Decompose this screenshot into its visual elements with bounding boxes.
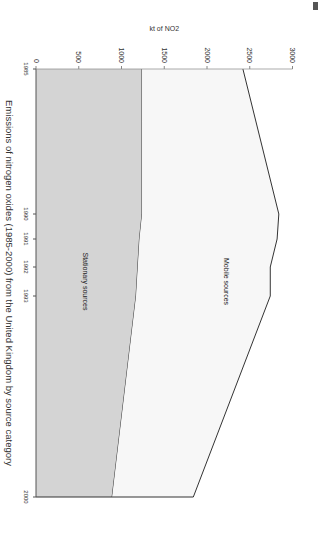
y-tick-label: 0 [33, 59, 40, 63]
area-chart: Emissions of nitrogen oxides (1985-2000)… [0, 0, 322, 554]
y-tick-label: 3000 [289, 47, 296, 63]
y-tick-label: 2000 [204, 47, 211, 63]
y-tick-label: 1500 [161, 47, 168, 63]
y-tick-label: 1000 [118, 47, 125, 63]
y-tick-label: 2500 [246, 47, 253, 63]
x-tick-label: 1991 [23, 232, 29, 246]
y-tick-label: 500 [75, 51, 82, 63]
x-tick-label: 1993 [23, 289, 29, 303]
y-axis-label: kt of NO2 [149, 25, 179, 32]
x-tick-label: 1992 [23, 260, 29, 274]
annotation-stationary-sources: Stationary sources [81, 253, 89, 311]
rotated-chart: Emissions of nitrogen oxides (1985-2000)… [0, 0, 322, 554]
x-tick-label: 1990 [23, 207, 29, 221]
x-tick-label: 1985 [23, 62, 29, 76]
x-tick-label: 2000 [23, 490, 29, 504]
chart-title: Emissions of nitrogen oxides (1985-2000)… [4, 100, 15, 466]
annotation-mobile-sources: Mobile sources [223, 258, 230, 306]
